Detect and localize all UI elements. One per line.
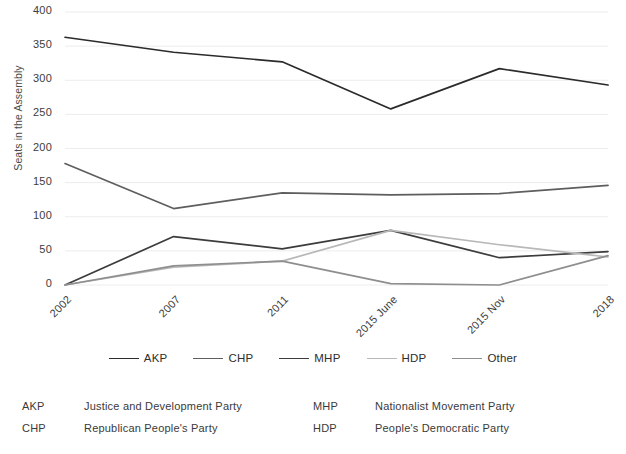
chart-plot-area: Seats in the Assembly 050100150200250300… bbox=[0, 0, 626, 345]
legend-swatch-icon bbox=[109, 358, 139, 359]
footnote-row: HDPPeople's Democratic Party bbox=[313, 422, 604, 434]
legend-label: AKP bbox=[144, 352, 168, 364]
footnote-abbreviation: HDP bbox=[313, 422, 375, 434]
legend-item-hdp[interactable]: HDP bbox=[367, 352, 427, 364]
series-line-akp bbox=[65, 37, 608, 109]
footnote-abbreviation: AKP bbox=[22, 400, 84, 412]
footnote-full-name: Republican People's Party bbox=[84, 422, 218, 434]
legend-swatch-icon bbox=[279, 358, 309, 359]
footnote-row: MHPNationalist Movement Party bbox=[313, 400, 604, 412]
party-abbreviation-key: AKPJustice and Development PartyMHPNatio… bbox=[0, 400, 626, 434]
legend-swatch-icon bbox=[367, 358, 397, 359]
legend-swatch-icon bbox=[193, 358, 223, 359]
footnote-abbreviation: CHP bbox=[22, 422, 84, 434]
legend-label: CHP bbox=[228, 352, 253, 364]
series-line-chp bbox=[65, 164, 608, 209]
legend-label: MHP bbox=[314, 352, 340, 364]
legend-item-akp[interactable]: AKP bbox=[109, 352, 168, 364]
line-chart-svg bbox=[0, 0, 626, 345]
footnote-row: CHPRepublican People's Party bbox=[22, 422, 313, 434]
chart-legend: AKPCHPMHPHDPOther bbox=[0, 352, 626, 364]
footnote-full-name: People's Democratic Party bbox=[375, 422, 509, 434]
footnote-full-name: Justice and Development Party bbox=[84, 400, 242, 412]
legend-label: HDP bbox=[402, 352, 427, 364]
legend-item-other[interactable]: Other bbox=[452, 352, 517, 364]
footnote-full-name: Nationalist Movement Party bbox=[375, 400, 515, 412]
figure-root: Seats in the Assembly 050100150200250300… bbox=[0, 0, 626, 454]
legend-label: Other bbox=[487, 352, 517, 364]
footnote-row: AKPJustice and Development Party bbox=[22, 400, 313, 412]
legend-item-chp[interactable]: CHP bbox=[193, 352, 253, 364]
legend-swatch-icon bbox=[452, 358, 482, 359]
footnote-abbreviation: MHP bbox=[313, 400, 375, 412]
series-line-other bbox=[65, 256, 608, 285]
legend-item-mhp[interactable]: MHP bbox=[279, 352, 340, 364]
